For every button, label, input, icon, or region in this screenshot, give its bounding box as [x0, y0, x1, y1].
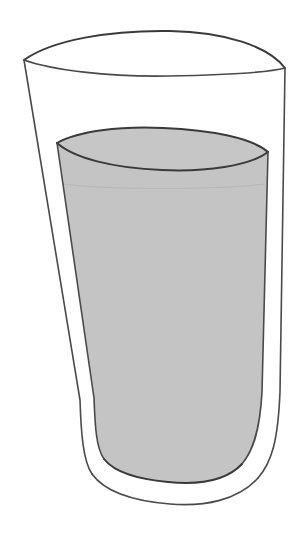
glass-rim-back-arc	[24, 31, 285, 68]
illustration-canvas: Drinking glass partially filled with liq…	[0, 0, 305, 538]
glass-of-liquid-illustration: Drinking glass partially filled with liq…	[0, 0, 305, 538]
